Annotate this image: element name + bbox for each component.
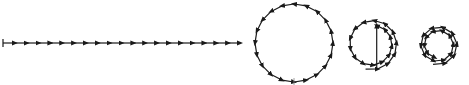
arrow-segment (331, 43, 333, 55)
arrow-segment (282, 4, 294, 6)
arrow-segment (374, 21, 385, 24)
arrow-segment (271, 75, 282, 81)
arrow-segment (378, 63, 389, 69)
arrow-segment (317, 11, 326, 20)
arrow-segment (271, 6, 282, 12)
arrow-spiral-partial (350, 21, 396, 70)
arrow-segment (434, 60, 444, 61)
arrow-segment (433, 63, 445, 64)
arrow-segment (450, 35, 454, 44)
arrow-segment (424, 46, 427, 54)
arrow-curling-diagram (0, 0, 469, 85)
arrow-segment (262, 66, 271, 75)
arrow-segment (262, 11, 271, 20)
arrow-segment (421, 46, 425, 56)
arrow-segment (306, 6, 317, 12)
arrow-segment (364, 64, 374, 65)
arrow-segment (363, 21, 374, 23)
arrow-segment (390, 37, 392, 46)
arrow-segment (257, 20, 263, 31)
arrow-segment (306, 75, 317, 81)
arrow-segment (257, 55, 263, 66)
arrow-segment (355, 58, 363, 64)
arrow-segment (421, 36, 423, 46)
arrow-segment (395, 42, 397, 53)
arrow-segment (393, 32, 397, 43)
arrow-segment (350, 29, 355, 39)
arrow-segment (383, 55, 390, 62)
arrow-segment (428, 54, 435, 58)
arrow-circle (255, 4, 333, 85)
arrow-segment (431, 27, 442, 28)
arrow-segment (317, 66, 326, 75)
arrow-segment (451, 44, 453, 53)
arrow-segment (282, 80, 294, 82)
arrow-segment (294, 4, 306, 6)
arrow-segment (326, 20, 332, 31)
arrow-segment (424, 37, 426, 45)
arrow-segment (389, 46, 392, 55)
arrow-segment (373, 62, 382, 65)
arrow-segment (255, 31, 257, 43)
arrow-segment (350, 49, 355, 58)
arrow-spiral-double (421, 27, 457, 64)
arrow-segment (433, 31, 442, 32)
straight-arrow-line (3, 39, 240, 47)
arrow-segment (385, 29, 391, 36)
arrow-segment (454, 44, 457, 56)
arrow-segment (331, 31, 333, 43)
arrow-segment (294, 80, 306, 82)
arrow-segment (355, 22, 364, 28)
arrow-segment (255, 43, 257, 55)
arrow-segment (445, 55, 454, 63)
arrow-segment (377, 26, 385, 30)
arrow-segment (326, 55, 332, 66)
